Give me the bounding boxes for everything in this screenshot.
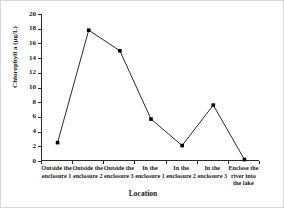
- x-axis-tick-label-line: Enclose the: [225, 164, 262, 172]
- chart-figure: Chlorophyll a (μg/L) 02468101214161820 O…: [0, 0, 284, 208]
- data-point-marker: [243, 158, 247, 162]
- series-markers: [56, 28, 246, 161]
- data-point-marker: [118, 49, 122, 53]
- series-line: [58, 30, 245, 159]
- y-axis-tick-label: 20: [14, 11, 36, 18]
- y-axis-tick-label: 8: [14, 99, 36, 106]
- y-axis-tick-label: 10: [14, 84, 36, 91]
- data-point-marker: [149, 117, 153, 121]
- x-axis-tick-label-line: the lake: [225, 179, 262, 187]
- data-series-chlorophyll-a: [42, 14, 260, 161]
- y-axis-tick-label: 16: [14, 40, 36, 47]
- x-axis-title: Location: [1, 189, 284, 198]
- y-axis-tick-label: 4: [14, 128, 36, 135]
- data-point-marker: [56, 141, 60, 145]
- data-point-marker: [211, 103, 215, 107]
- x-axis-tick-label-line: river into: [225, 172, 262, 180]
- plot-area: [41, 14, 259, 161]
- y-axis-tick-label: 18: [14, 25, 36, 32]
- x-axis-tick-label: Enclose theriver intothe lake: [225, 164, 262, 187]
- y-axis-tick-label: 14: [14, 55, 36, 62]
- y-axis-tick-label: 0: [14, 158, 36, 165]
- data-point-marker: [87, 28, 91, 32]
- y-axis-tick-label: 6: [14, 113, 36, 120]
- data-point-marker: [180, 144, 184, 148]
- y-axis-tick-label: 2: [14, 143, 36, 150]
- y-axis-tick-label: 12: [14, 69, 36, 76]
